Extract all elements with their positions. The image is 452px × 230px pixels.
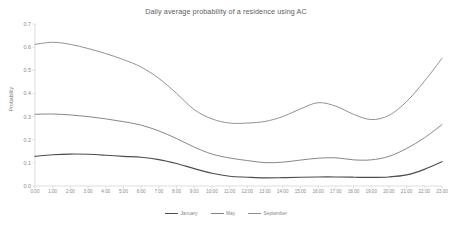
x-axis-tick-label: 1:00 xyxy=(48,189,57,194)
x-axis-tick-label: 7:00 xyxy=(154,189,163,194)
x-axis-tick-label: 22:00 xyxy=(419,189,431,194)
x-axis-tick-label: 12:00 xyxy=(242,189,254,194)
x-axis-tick-label: 8:00 xyxy=(172,189,181,194)
legend-label: January xyxy=(180,211,197,216)
series-line-september xyxy=(35,42,442,123)
x-axis-tick-label: 10:00 xyxy=(206,189,218,194)
legend-label: September xyxy=(264,211,287,216)
legend-item-september[interactable]: September xyxy=(248,211,287,216)
series-line-january xyxy=(35,154,442,178)
legend-label: May xyxy=(226,211,235,216)
data-series-group xyxy=(35,42,442,178)
chart-container: Daily average probability of a residence… xyxy=(0,0,452,230)
x-axis-tick-label: 17:00 xyxy=(330,189,342,194)
x-axis-tick-label: 2:00 xyxy=(66,189,75,194)
x-axis-tick-label: 3:00 xyxy=(84,189,93,194)
legend-line-swatch xyxy=(248,213,261,214)
legend-item-may[interactable]: May xyxy=(211,211,236,216)
x-axis-tick-label: 19:00 xyxy=(365,189,377,194)
x-axis-tick-label: 16:00 xyxy=(312,189,324,194)
series-line-may xyxy=(35,114,442,163)
x-axis-tick-label: 18:00 xyxy=(348,189,360,194)
x-axis-tick-label: 20:00 xyxy=(383,189,395,194)
x-axis-tick-label: 14:00 xyxy=(277,189,289,194)
plot-area xyxy=(0,0,452,230)
x-axis-tick-label: 9:00 xyxy=(190,189,199,194)
x-axis-tick-label: 6:00 xyxy=(137,189,146,194)
x-axis-tick-label: 13:00 xyxy=(259,189,271,194)
x-axis-ticks xyxy=(35,186,442,189)
legend-line-swatch xyxy=(211,213,224,214)
legend-line-swatch xyxy=(165,213,178,215)
x-axis-tick-label: 23:00 xyxy=(436,189,448,194)
x-axis-tick-label: 11:00 xyxy=(224,189,235,194)
x-axis-tick-label: 21:00 xyxy=(401,189,413,194)
x-axis-tick-label: 4:00 xyxy=(101,189,110,194)
chart-legend: JanuaryMaySeptember xyxy=(0,211,452,216)
x-axis-tick-label: 15:00 xyxy=(295,189,307,194)
y-axis-ticks xyxy=(33,24,36,186)
x-axis-tick-label: 0:00 xyxy=(31,189,40,194)
x-axis-tick-label: 5:00 xyxy=(119,189,128,194)
axis-lines xyxy=(35,24,442,186)
legend-item-january[interactable]: January xyxy=(165,211,198,216)
